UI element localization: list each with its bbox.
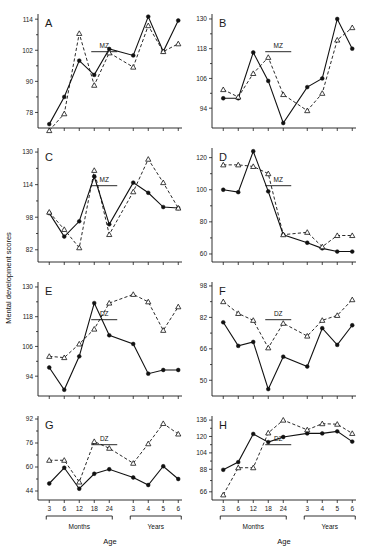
panel-g: 44607692GDZ361218243456MonthsYearsAge xyxy=(26,415,182,546)
datapoint-open xyxy=(92,83,97,88)
datapoint-filled xyxy=(266,387,270,391)
y-tick-label: 130 xyxy=(22,148,33,155)
datapoint-open xyxy=(107,446,112,451)
panel-letter-b: B xyxy=(219,17,226,29)
panel-a-axes xyxy=(38,14,182,128)
datapoint-open xyxy=(236,94,241,99)
y-tick-label: 130 xyxy=(22,283,33,290)
datapoint-filled xyxy=(131,476,135,480)
x-tick-label: 3 xyxy=(221,505,225,512)
months-bracket xyxy=(46,516,112,520)
datapoint-filled xyxy=(305,365,309,369)
panel-g-axes xyxy=(38,416,182,500)
x-tick-label: 5 xyxy=(161,505,165,512)
y-tick-label: 136 xyxy=(196,416,207,423)
datapoint-filled xyxy=(131,54,135,58)
datapoint-filled xyxy=(62,95,66,99)
datapoint-open xyxy=(161,328,166,333)
datapoint-filled xyxy=(236,190,240,194)
datapoint-open xyxy=(161,180,166,185)
panel-d-axes xyxy=(212,148,356,262)
y-tick-label: 98 xyxy=(200,282,208,289)
datapoint-filled xyxy=(221,96,225,100)
datapoint-open xyxy=(47,210,52,215)
years-bracket xyxy=(304,516,355,520)
datapoint-filled xyxy=(131,342,135,346)
datapoint-open xyxy=(131,65,136,70)
x-tick-label: 18 xyxy=(265,505,273,512)
datapoint-filled xyxy=(146,15,150,19)
datapoint-filled xyxy=(62,466,66,470)
datapoint-filled xyxy=(176,477,180,481)
datapoint-filled xyxy=(146,483,150,487)
y-tick-label: 106 xyxy=(22,343,33,350)
datapoint-open xyxy=(281,321,286,326)
figure-canvas: 7890102114AMZ94106118130BMZ8298114130CMZ… xyxy=(0,0,374,556)
datapoint-filled xyxy=(251,51,255,55)
datapoint-filled xyxy=(305,241,309,245)
datapoint-open xyxy=(131,189,136,194)
series-line-twin-1 xyxy=(223,431,352,469)
datapoint-open xyxy=(281,417,286,422)
datapoint-filled xyxy=(281,355,285,359)
datapoint-open xyxy=(350,25,355,30)
y-tick-label: 78 xyxy=(26,109,34,116)
zygosity-label-g: DZ xyxy=(100,435,109,442)
datapoint-open xyxy=(176,431,181,436)
y-tick-label: 66 xyxy=(200,488,208,495)
x-tick-label: 6 xyxy=(236,505,240,512)
y-tick-label: 98 xyxy=(26,214,34,221)
datapoint-filled xyxy=(335,250,339,254)
series-line-twin-1 xyxy=(49,303,178,390)
panel-c: 8298114130CMZ xyxy=(22,148,182,265)
datapoint-open xyxy=(146,23,151,28)
zygosity-label-b: MZ xyxy=(274,42,283,49)
datapoint-filled xyxy=(77,354,81,358)
x-tick-label: 18 xyxy=(91,505,99,512)
panel-e-axes xyxy=(38,282,182,396)
panel-e: 94106118130EDZ xyxy=(22,282,182,399)
series-line-twin-2 xyxy=(223,420,352,495)
datapoint-open xyxy=(320,91,325,96)
y-tick-label: 60 xyxy=(26,463,34,470)
datapoint-filled xyxy=(266,79,270,83)
datapoint-filled xyxy=(131,181,135,185)
datapoint-filled xyxy=(77,487,81,491)
x-tick-label: 6 xyxy=(62,505,66,512)
datapoint-open xyxy=(161,421,166,426)
datapoint-filled xyxy=(62,388,66,392)
y-tick-label: 114 xyxy=(23,16,34,23)
datapoint-filled xyxy=(320,326,324,330)
datapoint-filled xyxy=(350,47,354,51)
datapoint-filled xyxy=(320,77,324,81)
datapoint-filled xyxy=(221,188,225,192)
y-tick-label: 76 xyxy=(26,439,34,446)
x-tick-label: 6 xyxy=(350,505,354,512)
datapoint-filled xyxy=(350,323,354,327)
datapoint-filled xyxy=(251,432,255,436)
panel-letter-f: F xyxy=(219,285,226,297)
datapoint-filled xyxy=(161,368,165,372)
x-tick-label: 5 xyxy=(335,505,339,512)
datapoint-open xyxy=(131,292,136,297)
datapoint-filled xyxy=(251,149,255,153)
datapoint-open xyxy=(221,299,226,304)
datapoint-open xyxy=(251,71,256,76)
x-tick-label: 4 xyxy=(320,505,324,512)
panel-h-axes xyxy=(212,416,356,500)
series-line-twin-2 xyxy=(49,294,178,357)
years-bracket xyxy=(130,516,181,520)
datapoint-filled xyxy=(47,366,51,370)
datapoint-filled xyxy=(161,464,165,468)
datapoint-filled xyxy=(176,368,180,372)
datapoint-open xyxy=(266,345,271,350)
datapoint-open xyxy=(350,297,355,302)
y-tick-label: 60 xyxy=(200,250,208,257)
months-bracket xyxy=(220,516,286,520)
datapoint-open xyxy=(92,326,97,331)
series-line-twin-2 xyxy=(223,28,352,111)
y-tick-label: 44 xyxy=(26,487,34,494)
x-axis-label: Age xyxy=(277,537,290,546)
datapoint-filled xyxy=(251,340,255,344)
years-label: Years xyxy=(322,523,339,530)
